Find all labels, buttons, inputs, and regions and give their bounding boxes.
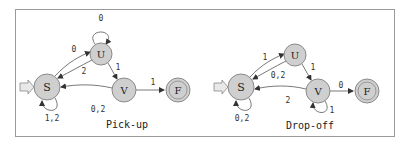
caption-pickup: Pick-up [106,119,148,130]
node-u: U [90,43,112,65]
figure: S U V F 0 0 2 1 1 0,2 1,2 Pick-up [0,0,411,147]
label-u-to-s: 2 [82,67,87,76]
label-s-loop: 0,2 [235,114,250,123]
node-s-label: S [43,81,51,94]
node-s: S [228,74,254,100]
caption-dropoff: Drop-off [286,120,334,131]
node-f-accepting: F [166,78,190,102]
pickup-diagram: S U V F 0 0 2 1 1 0,2 1,2 Pick-up [20,14,190,130]
dropoff-diagram: S U V F 1 0,2 1 0 2 0,2 1 Drop-off [214,44,379,131]
node-u: U [284,44,306,66]
label-u-to-v: 1 [311,63,316,72]
label-u-loop: 0 [99,14,104,23]
node-u-label: U [97,49,105,60]
start-arrow-icon [214,80,228,94]
label-s-to-u: 1 [263,53,268,62]
edge-v-to-s [255,86,306,89]
node-v: V [306,79,330,103]
label-u-to-s: 0,2 [271,71,286,80]
start-arrow-icon [20,80,34,94]
node-s: S [34,74,60,100]
node-u-label: U [291,50,299,61]
node-s-label: S [237,81,245,94]
node-v-label: V [313,86,322,97]
node-f-accepting: F [355,79,379,103]
label-s-to-u: 0 [72,45,77,54]
label-u-to-v: 1 [116,63,121,72]
label-v-to-f: 0 [339,81,344,90]
node-f-label: F [175,85,182,96]
label-v-to-s: 2 [286,96,291,105]
label-v-to-f: 1 [151,78,156,87]
node-v: V [112,78,136,102]
label-s-loop: 1,2 [45,114,60,123]
automata-diagrams: S U V F 0 0 2 1 1 0,2 1,2 Pick-up [0,0,411,147]
node-v-label: V [119,85,128,96]
label-v-loop: 1 [330,106,335,115]
edge-u-to-s [58,60,92,78]
edge-u-loop [93,32,109,44]
label-v-to-s: 0,2 [91,105,106,114]
edge-v-to-s [61,85,112,88]
node-f-label: F [364,86,371,97]
